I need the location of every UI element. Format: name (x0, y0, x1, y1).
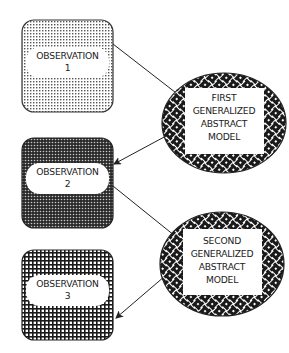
first-model-ellipse: FIRST GENERALIZED ABSTRACT MODEL (162, 73, 286, 173)
arrow-model1-to-obs2 (114, 136, 166, 164)
model-2-line-4: MODEL (206, 274, 239, 285)
observation-1-label: OBSERVATION (36, 50, 98, 61)
model-1-line-3: ABSTRACT (201, 118, 248, 129)
observation-2-number: 2 (65, 178, 71, 189)
observation-1-number: 1 (65, 62, 71, 73)
model-1-line-4: MODEL (208, 131, 241, 142)
observation-3-label: OBSERVATION (36, 278, 98, 289)
second-model-ellipse: SECOND GENERALIZED ABSTRACT MODEL (160, 212, 284, 316)
arrow-obs1-to-model1 (113, 44, 180, 96)
model-1-line-2: GENERALIZED (193, 105, 256, 116)
diagram-canvas: OBSERVATION 1 OBSERVATION 2 OBSERVATION … (0, 0, 289, 353)
observation-2-box: OBSERVATION 2 (22, 138, 113, 228)
observation-1-box: OBSERVATION 1 (22, 20, 113, 112)
model-2-line-1: SECOND (203, 235, 241, 246)
arrow-obs2-to-model2 (113, 186, 180, 240)
model-1-line-1: FIRST (212, 92, 237, 103)
observation-2-label: OBSERVATION (36, 166, 98, 177)
observation-3-box: OBSERVATION 3 (22, 250, 113, 340)
model-2-line-2: GENERALIZED (191, 248, 254, 259)
model-2-line-3: ABSTRACT (199, 261, 246, 272)
arrow-model2-to-obs3 (116, 276, 165, 318)
observation-3-number: 3 (65, 290, 71, 301)
